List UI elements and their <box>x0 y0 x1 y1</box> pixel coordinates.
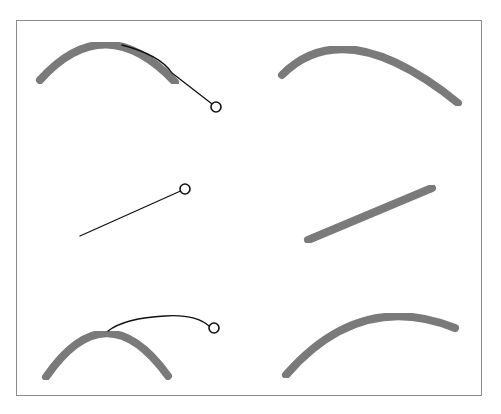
drag-handle-icon[interactable] <box>211 102 221 112</box>
curve-after <box>308 188 432 240</box>
drag-handle-icon[interactable] <box>209 323 219 333</box>
drag-handle-icon[interactable] <box>180 184 190 194</box>
curve-after <box>282 49 458 103</box>
curve-before <box>46 333 168 377</box>
row-arc-drag <box>40 44 458 112</box>
handle-line <box>108 316 209 331</box>
handle-line <box>80 189 185 236</box>
curve-after <box>286 316 455 375</box>
row-line-rotate <box>63 184 432 240</box>
figure-canvas <box>0 0 501 414</box>
curve-before <box>40 44 175 82</box>
curve-diagram <box>0 0 501 414</box>
row-arc-extend <box>46 316 455 377</box>
